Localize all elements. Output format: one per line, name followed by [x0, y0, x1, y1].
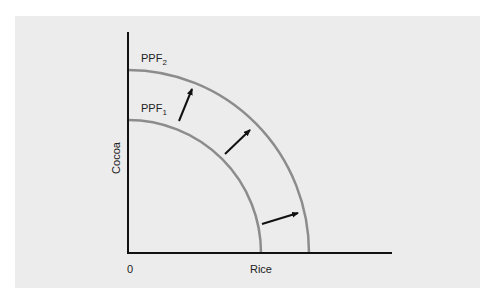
shift-arrow-icon [179, 89, 192, 121]
x-axis-label: Rice [250, 263, 272, 275]
origin-label: 0 [127, 263, 133, 275]
ppf-diagram: PPF2 PPF1 Cocoa Rice 0 [0, 0, 490, 300]
shift-arrow-icon [262, 213, 298, 224]
y-axis-label: Cocoa [110, 141, 122, 174]
ppf2-curve [128, 70, 309, 253]
ppf1-label: PPF1 [141, 102, 167, 117]
shift-arrow-icon [225, 130, 250, 154]
ppf2-label: PPF2 [141, 52, 167, 67]
